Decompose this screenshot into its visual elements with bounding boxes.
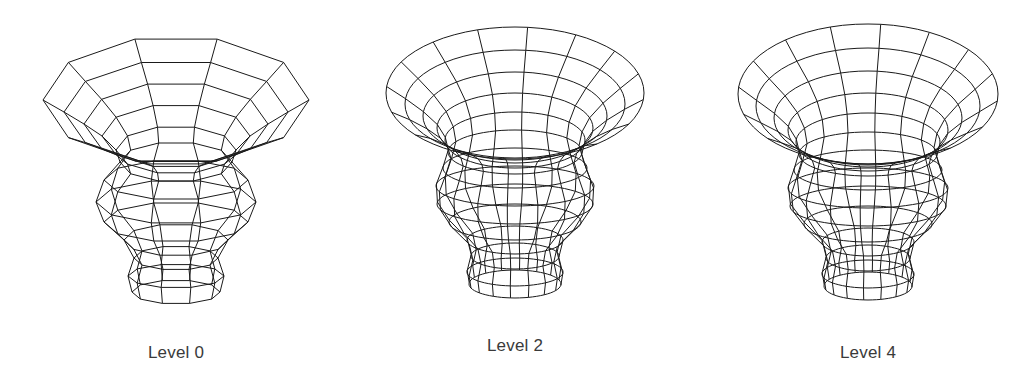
wireframe-canvas [0,0,1025,387]
figure-level-0-mesh [43,39,309,303]
figure-level-2-mesh [386,27,644,298]
figure-level-4-mesh [738,24,998,300]
figure-level-2-label: Level 2 [487,336,543,356]
figure-level-0-label: Level 0 [148,343,204,363]
figure-level-4-label: Level 4 [840,343,896,363]
